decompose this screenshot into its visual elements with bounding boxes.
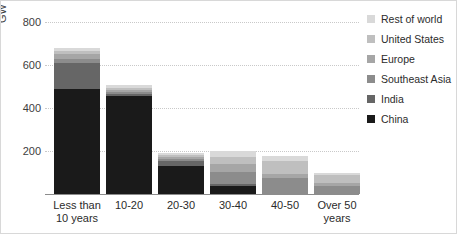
bar-segment-southeast-asia: [314, 186, 360, 194]
y-axis-tick-labels: 200400600800: [1, 1, 41, 234]
gridline-800: [45, 22, 359, 23]
legend-item-india[interactable]: India: [367, 89, 457, 109]
legend-swatch-icon: [367, 95, 375, 103]
bar-30-40[interactable]: [210, 151, 256, 194]
legend-item-united-states[interactable]: United States: [367, 29, 457, 49]
bar-segment-china: [158, 166, 204, 194]
bar-less-than-10-years[interactable]: [54, 48, 100, 194]
bar-10-20[interactable]: [106, 85, 152, 194]
bar-segment-united-states: [262, 161, 308, 174]
legend-swatch-icon: [367, 35, 375, 43]
bar-segment-china: [106, 96, 152, 194]
bar-segment-southeast-asia: [210, 172, 256, 184]
x-axis-label-over-50-years: Over 50years: [306, 199, 368, 225]
plot-area: [45, 7, 359, 195]
bar-40-50[interactable]: [262, 156, 308, 194]
chart-legend: Rest of worldUnited StatesEuropeSoutheas…: [367, 9, 457, 129]
legend-item-china[interactable]: China: [367, 109, 457, 129]
legend-label: Rest of world: [381, 13, 442, 25]
bar-20-30[interactable]: [158, 153, 204, 194]
x-axis-line: [45, 194, 359, 195]
legend-item-europe[interactable]: Europe: [367, 49, 457, 69]
bar-segment-china: [210, 186, 256, 194]
category-label-line: 10 years: [46, 212, 108, 225]
legend-item-southeast-asia[interactable]: Southeast Asia: [367, 69, 457, 89]
legend-item-rest-of-world[interactable]: Rest of world: [367, 9, 457, 29]
y-tick-label-200: 200: [23, 145, 41, 157]
category-label-line: years: [306, 212, 368, 225]
legend-swatch-icon: [367, 15, 375, 23]
legend-label: United States: [381, 33, 444, 45]
y-tick-label-400: 400: [23, 102, 41, 114]
stacked-bar-chart: GW 200400600800 Less than10 years10-2020…: [0, 0, 457, 234]
legend-swatch-icon: [367, 55, 375, 63]
bar-segment-europe: [210, 164, 256, 173]
bar-segment-southeast-asia: [262, 178, 308, 194]
legend-label: Europe: [381, 53, 415, 65]
legend-swatch-icon: [367, 115, 375, 123]
category-label-line: Over 50: [306, 199, 368, 212]
legend-label: India: [381, 93, 404, 105]
bar-segment-india: [54, 63, 100, 89]
y-tick-label-600: 600: [23, 59, 41, 71]
legend-label: China: [381, 113, 408, 125]
legend-label: Southeast Asia: [381, 73, 451, 85]
bar-segment-united-states: [314, 175, 360, 184]
bar-over-50-years[interactable]: [314, 173, 360, 195]
legend-swatch-icon: [367, 75, 375, 83]
bar-segment-china: [54, 89, 100, 194]
y-tick-label-800: 800: [23, 16, 41, 28]
